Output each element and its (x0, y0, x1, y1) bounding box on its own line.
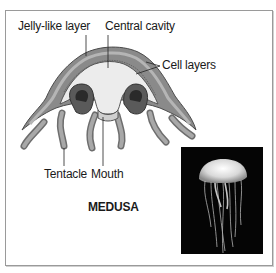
label-jelly-like-layer: Jelly-like layer (18, 19, 90, 33)
label-cell-layers: Cell layers (162, 58, 216, 72)
jellyfish-photo-icon (181, 147, 263, 254)
label-central-cavity: Central cavity (105, 19, 175, 33)
jellyfish-photo (181, 147, 263, 254)
figure-title: MEDUSA (88, 200, 139, 214)
label-tentacle: Tentacle (44, 167, 87, 181)
label-mouth: Mouth (91, 167, 123, 181)
